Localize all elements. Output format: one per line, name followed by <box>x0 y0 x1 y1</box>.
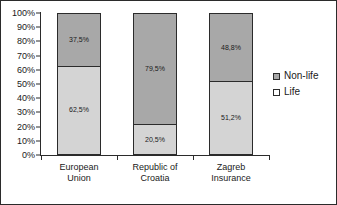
bar-segment-value: 62,5% <box>69 106 89 114</box>
x-axis-category-line: Zagreb <box>193 162 269 173</box>
bar-group: 37,5%62,5% <box>57 13 101 155</box>
y-axis-tick-label: 40% <box>17 94 35 103</box>
stacked-bar[interactable]: 48,8%51,2% <box>209 13 253 155</box>
y-axis-tick-label: 20% <box>17 122 35 131</box>
y-axis-tick-mark <box>36 140 40 141</box>
y-axis: 0%10%20%30%40%50%60%70%80%90%100% <box>1 13 35 155</box>
y-axis-tick-label: 90% <box>17 23 35 32</box>
x-axis-tick-mark <box>193 155 194 160</box>
bar-segment-value: 20,5% <box>145 136 165 144</box>
y-axis-tick-mark <box>36 155 40 156</box>
legend-item-label: Life <box>284 87 300 97</box>
bar-segment-life[interactable]: 20,5% <box>134 125 176 154</box>
bar-segment-non-life[interactable]: 48,8% <box>210 14 252 82</box>
x-axis-category-label: Republic ofCroatia <box>117 162 193 184</box>
legend-item-label: Non-life <box>284 71 318 81</box>
x-axis: EuropeanUnionRepublic ofCroatiaZagrebIns… <box>41 162 269 196</box>
y-axis-tick-mark <box>36 98 40 99</box>
y-axis-tick-mark <box>36 41 40 42</box>
y-axis-tick-mark <box>36 27 40 28</box>
chart-figure: 0%10%20%30%40%50%60%70%80%90%100% 37,5%6… <box>0 0 337 205</box>
y-axis-tick-label: 60% <box>17 65 35 74</box>
bar-group: 79,5%20,5% <box>133 13 177 155</box>
x-axis-category-line: Republic of <box>117 162 193 173</box>
y-axis-tick-mark <box>36 112 40 113</box>
legend-swatch-icon <box>273 89 280 96</box>
x-axis-category-label: EuropeanUnion <box>41 162 117 184</box>
x-axis-category-line: Union <box>41 173 117 184</box>
y-axis-tick-label: 0% <box>22 151 35 160</box>
bar-segment-non-life[interactable]: 37,5% <box>58 14 100 67</box>
bar-group: 48,8%51,2% <box>209 13 253 155</box>
bar-segment-value: 37,5% <box>69 36 89 44</box>
bar-segment-life[interactable]: 51,2% <box>210 82 252 154</box>
x-axis-line <box>40 155 269 156</box>
x-axis-tick-mark <box>269 155 270 160</box>
x-axis-tick-mark <box>117 155 118 160</box>
bar-segment-value: 48,8% <box>221 44 241 52</box>
bar-segment-life[interactable]: 62,5% <box>58 67 100 155</box>
y-axis-tick-label: 100% <box>12 9 35 18</box>
bar-segment-value: 51,2% <box>221 114 241 122</box>
stacked-bar[interactable]: 79,5%20,5% <box>133 13 177 155</box>
bar-segment-value: 79,5% <box>145 65 165 73</box>
y-axis-tick-mark <box>36 13 40 14</box>
y-axis-tick-mark <box>36 126 40 127</box>
legend-swatch-icon <box>273 73 280 80</box>
y-axis-tick-label: 10% <box>17 136 35 145</box>
legend-item-life[interactable]: Life <box>273 87 335 97</box>
x-axis-category-line: Insurance <box>193 173 269 184</box>
y-axis-tick-label: 70% <box>17 51 35 60</box>
y-axis-tick-label: 30% <box>17 108 35 117</box>
plot-area: 37,5%62,5%79,5%20,5%48,8%51,2% <box>41 13 269 155</box>
y-axis-tick-mark <box>36 84 40 85</box>
x-axis-tick-mark <box>41 155 42 160</box>
y-axis-tick-label: 50% <box>17 80 35 89</box>
y-axis-tick-label: 80% <box>17 37 35 46</box>
x-axis-category-line: Croatia <box>117 173 193 184</box>
x-axis-category-line: European <box>41 162 117 173</box>
y-axis-tick-mark <box>36 69 40 70</box>
stacked-bar[interactable]: 37,5%62,5% <box>57 13 101 155</box>
bar-segment-non-life[interactable]: 79,5% <box>134 14 176 125</box>
chart-legend: Non-life Life <box>273 71 335 103</box>
legend-item-non-life[interactable]: Non-life <box>273 71 335 81</box>
y-axis-tick-mark <box>36 55 40 56</box>
x-axis-category-label: ZagrebInsurance <box>193 162 269 184</box>
